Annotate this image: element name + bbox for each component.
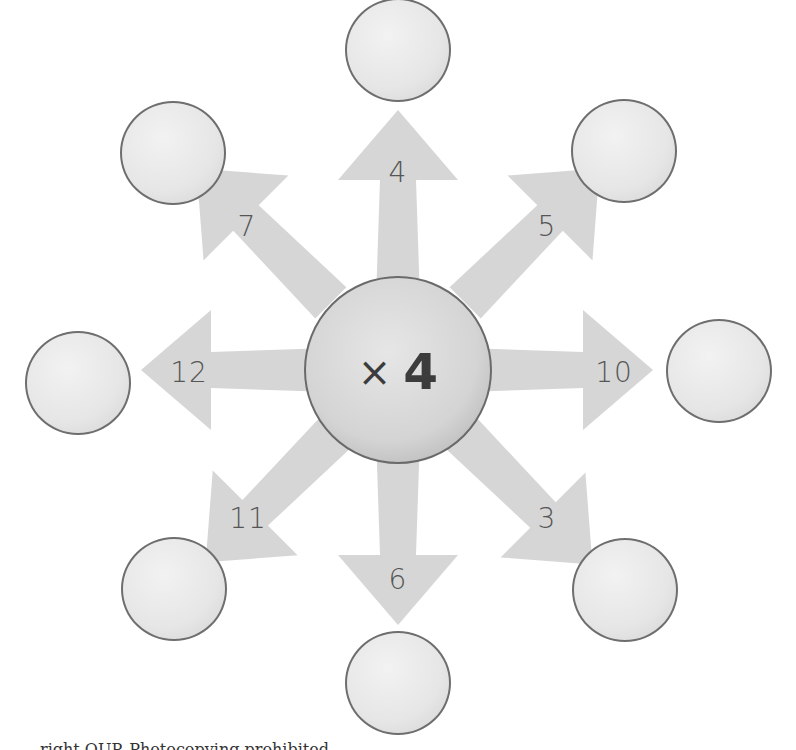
answer-circle-up-left[interactable] (120, 101, 226, 205)
arrow-number-up: 4 (389, 156, 408, 189)
multiplier: 4 (403, 343, 438, 401)
arrow-number-down: 6 (389, 563, 408, 596)
arrow-number-up-left: 7 (238, 210, 257, 243)
arrow-number-down-left: 11 (229, 502, 267, 535)
answer-circle-left[interactable] (25, 331, 131, 435)
answer-circle-up-right[interactable] (571, 99, 677, 203)
arrow-number-left: 12 (170, 356, 208, 389)
answer-circle-up[interactable] (345, 0, 451, 102)
answer-circle-down[interactable] (345, 631, 451, 735)
center-operation: × 4 (358, 343, 438, 401)
answer-circle-down-left[interactable] (121, 537, 227, 641)
arrow-up (338, 110, 458, 300)
arrow-number-up-right: 5 (538, 210, 557, 243)
times-sign: × (358, 349, 392, 395)
copyright-caption: right OUP. Photocopying prohibited (40, 739, 329, 750)
answer-circle-down-right[interactable] (572, 538, 678, 642)
arrow-number-right: 10 (595, 356, 633, 389)
answer-circle-right[interactable] (666, 319, 772, 423)
arrow-number-down-right: 3 (538, 502, 557, 535)
